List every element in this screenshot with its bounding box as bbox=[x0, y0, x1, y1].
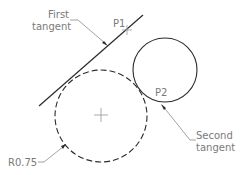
second-tangent-label: Second bbox=[196, 130, 233, 141]
radius-label: R0.75 bbox=[8, 157, 37, 168]
center-mark-icon bbox=[94, 108, 108, 122]
second-tangent-label-2: tangent bbox=[196, 142, 235, 153]
p2-label: P2 bbox=[155, 87, 167, 98]
first-tangent-leader bbox=[70, 20, 106, 44]
radius-leader bbox=[38, 146, 64, 162]
first-tangent-label-2: tangent bbox=[32, 21, 71, 32]
first-tangent-label: First bbox=[48, 9, 69, 20]
tangent-construction-diagram: First tangent P1 P2 Second tangent R0.75 bbox=[0, 0, 246, 175]
p1-label: P1 bbox=[113, 18, 125, 29]
second-tangent-leader bbox=[162, 105, 196, 140]
